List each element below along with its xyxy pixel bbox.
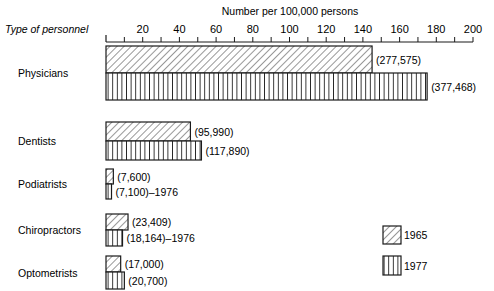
data-label: (95,990) <box>194 126 233 138</box>
data-label: (377,468) <box>431 81 476 93</box>
x-tick-label: 40 <box>173 23 185 35</box>
bars <box>106 46 427 289</box>
bar-1965-dentists <box>106 122 190 141</box>
category-label: Optometrists <box>18 267 78 279</box>
bar-1965-physicians <box>106 46 372 73</box>
bar-1977-podiatrists <box>106 184 112 199</box>
bar-1977-chiropractors <box>106 230 123 246</box>
bar-1977-optometrists <box>106 272 124 289</box>
data-label: (18,164)–1976 <box>127 232 195 244</box>
category-label: Physicians <box>18 67 68 79</box>
data-label: (23,409) <box>132 216 171 228</box>
legend: 1965 1977 <box>383 226 428 275</box>
data-label: (277,575) <box>376 54 421 66</box>
x-tick-label: 80 <box>247 23 259 35</box>
legend-swatch-1965 <box>383 226 401 244</box>
legend-label-1977: 1977 <box>404 260 428 272</box>
category-label: Dentists <box>18 135 56 147</box>
data-label: (7,100)–1976 <box>116 186 179 198</box>
data-label: (7,600) <box>117 171 150 183</box>
x-tick-label: 20 <box>137 23 149 35</box>
legend-label-1965: 1965 <box>404 229 428 241</box>
x-tick-label: 60 <box>210 23 222 35</box>
bar-1977-physicians <box>106 73 427 100</box>
y-axis-title: Type of personnel <box>5 23 89 35</box>
x-tick-label: 120 <box>317 23 335 35</box>
bar-1965-chiropractors <box>106 214 128 230</box>
category-label: Podiatrists <box>18 178 67 190</box>
data-label: (117,890) <box>205 145 249 157</box>
data-label: (17,000) <box>125 258 164 270</box>
legend-swatch-1977 <box>383 256 401 275</box>
x-tick-label: 140 <box>354 23 372 35</box>
x-tick-label: 160 <box>390 23 408 35</box>
x-tick-label: 100 <box>280 23 298 35</box>
x-tick-label: 200 <box>464 23 482 35</box>
bar-1977-dentists <box>106 141 201 160</box>
x-axis: 20406080100120140160180200 <box>106 23 482 42</box>
bar-1965-podiatrists <box>106 169 113 184</box>
x-axis-title: Number per 100,000 persons <box>222 5 359 17</box>
bar-1965-optometrists <box>106 256 121 272</box>
x-tick-label: 180 <box>427 23 445 35</box>
category-labels: PhysiciansDentistsPodiatristsChiropracto… <box>18 67 81 279</box>
category-label: Chiropractors <box>18 224 81 236</box>
data-label: (20,700) <box>128 275 167 287</box>
bar-chart: Number per 100,000 persons Type of perso… <box>0 0 494 291</box>
